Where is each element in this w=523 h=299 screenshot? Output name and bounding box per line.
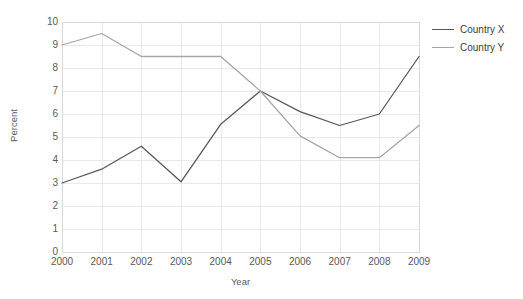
y-tick-label: 1 [32,224,58,234]
chart-title-cropped [105,0,355,3]
y-axis-title: Percent [8,96,19,156]
legend-line-swatch [432,29,454,30]
x-tick-label: 2003 [159,256,203,267]
line-chart: 012345678910 200020012002200320042005200… [0,0,523,299]
y-tick-label: 7 [32,86,58,96]
legend-item-label: Country X [460,24,504,35]
series-line-country-x [62,57,419,184]
x-tick-label: 2004 [199,256,243,267]
y-tick-label: 2 [32,201,58,211]
x-tick-label: 2007 [318,256,362,267]
x-tick-label: 2005 [238,256,282,267]
y-tick-label: 10 [32,17,58,27]
x-axis-title: Year [62,276,419,287]
y-tick-label: 3 [32,178,58,188]
x-tick-label: 2008 [357,256,401,267]
x-tick-label: 2002 [119,256,163,267]
y-tick-label: 5 [32,132,58,142]
legend-item-country-x[interactable]: Country X [432,20,520,38]
y-tick-label: 8 [32,63,58,73]
y-tick-label: 4 [32,155,58,165]
x-tick-label: 2001 [80,256,124,267]
chart-legend: Country XCountry Y [432,20,520,56]
x-tick-label: 2006 [278,256,322,267]
y-tick-label: 6 [32,109,58,119]
legend-item-country-y[interactable]: Country Y [432,38,520,56]
y-tick-label: 9 [32,40,58,50]
y-axis-tick-labels: 012345678910 [30,0,58,299]
x-tick-label: 2009 [397,256,441,267]
legend-line-swatch [432,47,454,48]
legend-item-label: Country Y [460,42,504,53]
series-line-country-y [62,34,419,158]
x-tick-label: 2000 [40,256,84,267]
